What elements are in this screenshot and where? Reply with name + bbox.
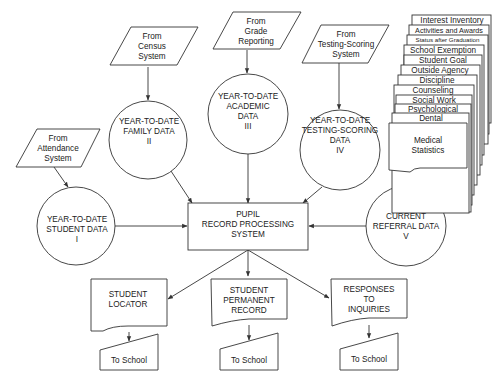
source-grade-reporting: FromGradeReporting (213, 12, 301, 49)
datastore-student-data: YEAR-TO-DATESTUDENT DATAI (37, 187, 115, 265)
datastore-family-data: YEAR-TO-DATEFAMILY DATAII (109, 101, 187, 179)
edge-ts-to-process (303, 187, 322, 203)
to-school-inquiries: To School (340, 333, 398, 370)
doc-discipline: Discipline (419, 76, 454, 85)
source-testing-scoring: FromTesting-ScoringSystem (302, 25, 389, 63)
output-student-permanent-record: STUDENTPERMANENTRECORD (211, 279, 287, 326)
process-pupil-record-system: PUPILRECORD PROCESSINGSYSTEM (188, 203, 308, 250)
output-responses-to-inquiries: RESPONSESTOINQUIRIES (331, 279, 407, 326)
svg-text:To School: To School (111, 356, 147, 365)
source-census: FromCensusSystem (110, 27, 198, 65)
doc-dental: Dental (419, 114, 443, 123)
svg-text:STUDENTLOCATOR: STUDENTLOCATOR (109, 290, 148, 309)
document-stack: Interest Inventory Activities and Awards… (389, 15, 491, 213)
pupil-record-flowchart: FromAttendanceSystem FromCensusSystem Fr… (0, 0, 496, 384)
doc-school-exemption: School Exemption (410, 46, 476, 55)
source-attendance: FromAttendanceSystem (16, 129, 100, 167)
edge-family-to-process (169, 168, 192, 203)
datastore-testing-scoring-data: YEAR-TO-DATETESTING-SCORINGDATAIV (300, 110, 380, 190)
doc-outside-agency: Outside Agency (411, 66, 469, 75)
datastore-academic-data: YEAR-TO-DATEACADEMICDATAIII (208, 74, 288, 154)
doc-student-goal: Student Goal (419, 56, 467, 65)
doc-status-after-graduation: Status after Graduation (416, 36, 481, 43)
svg-text:To School: To School (231, 356, 267, 365)
doc-interest-inventory: Interest Inventory (420, 16, 484, 25)
doc-activities-awards: Activities and Awards (415, 26, 483, 35)
output-student-locator: STUDENTLOCATOR (91, 279, 167, 331)
edge-attendance-to-student (54, 167, 68, 187)
svg-text:To School: To School (351, 355, 387, 364)
doc-counseling: Counseling (413, 86, 454, 95)
svg-text:MedicalStatistics: MedicalStatistics (412, 136, 445, 155)
